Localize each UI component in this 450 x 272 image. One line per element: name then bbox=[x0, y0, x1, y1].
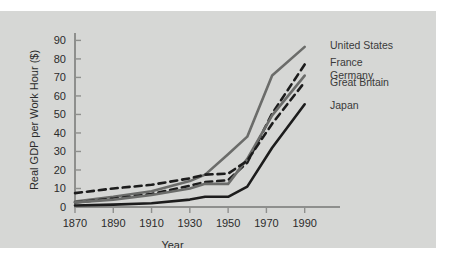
chart-figure: 0102030405060708090 18701890191019301950… bbox=[0, 0, 450, 272]
x-tick-label: 1970 bbox=[254, 217, 278, 229]
series-line-germany bbox=[75, 76, 305, 203]
series-label-japan: Japan bbox=[330, 99, 359, 111]
y-tick-label: 80 bbox=[54, 53, 66, 65]
x-tick-label: 1870 bbox=[63, 217, 87, 229]
data-series bbox=[75, 47, 305, 206]
y-tick-labels: 0102030405060708090 bbox=[54, 34, 66, 213]
y-tick-label: 10 bbox=[54, 182, 66, 194]
y-tick-label: 90 bbox=[54, 34, 66, 46]
plot-area: 0102030405060708090 18701890191019301950… bbox=[0, 11, 436, 248]
y-axis-title: Real GDP per Work Hour ($) bbox=[28, 50, 40, 190]
line-chart: 0102030405060708090 18701890191019301950… bbox=[0, 11, 436, 248]
x-tick-label: 1990 bbox=[292, 217, 316, 229]
x-axis-title: Year bbox=[161, 239, 184, 248]
series-labels: United StatesFranceGermanyGreat BritainJ… bbox=[330, 39, 393, 110]
y-tick-label: 30 bbox=[54, 145, 66, 157]
series-label-great-britain: Great Britain bbox=[330, 76, 389, 88]
y-tick-label: 0 bbox=[60, 201, 66, 213]
series-line-great-britain bbox=[75, 82, 305, 193]
series-label-france: France bbox=[330, 56, 363, 68]
y-tick-label: 60 bbox=[54, 90, 66, 102]
y-tick-label: 70 bbox=[54, 71, 66, 83]
x-tick-label: 1930 bbox=[178, 217, 202, 229]
y-tick-label: 50 bbox=[54, 108, 66, 120]
y-tick-label: 20 bbox=[54, 164, 66, 176]
x-tick-label: 1950 bbox=[216, 217, 240, 229]
x-tick-labels: 1870189019101930195019701990 bbox=[63, 217, 317, 229]
series-label-united-states: United States bbox=[330, 39, 393, 51]
x-tick-label: 1910 bbox=[139, 217, 163, 229]
x-tick-label: 1890 bbox=[101, 217, 125, 229]
y-tick-label: 40 bbox=[54, 127, 66, 139]
chart-panel: 0102030405060708090 18701890191019301950… bbox=[0, 11, 436, 248]
